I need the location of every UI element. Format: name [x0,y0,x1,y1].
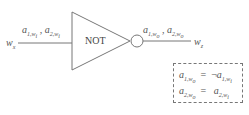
input-separator: , [40,24,43,35]
output-wire-sub: z [201,43,203,49]
equations-box: a1,wo = ¬a1,wi a2,wo = a2,wi [173,63,243,103]
input-signal-2-subsub: i [58,33,60,39]
eq1-rhs-subsub: i [230,78,232,84]
output-signal-2-sub: 2,w [172,31,181,37]
equation-2: a2,wo = a2,wi [179,85,229,100]
input-wire-name: w [6,37,13,48]
eq2-op: = [201,85,207,96]
eq1-lhs-sub: 1,w [184,76,193,82]
output-signals: a1,wo , a2,wo [143,24,184,39]
output-separator: , [162,24,165,35]
eq2-rhs-sub: 2,w [219,92,228,98]
eq2-lhs-subsub: o [193,94,196,100]
output-signal-1-sub: 1,w [148,31,157,37]
input-wire-sub: x [13,44,16,50]
input-signal-1-sub: 1,w [27,31,36,37]
output-wire-name: w [194,36,201,47]
eq1-lhs-subsub: o [193,78,196,84]
eq2-lhs-sub: 2,w [184,92,193,98]
input-signal-1-subsub: i [36,33,38,39]
input-signal-2-sub: 2,w [50,31,59,37]
output-signal-2-subsub: o [181,33,184,39]
inversion-bubble [131,35,143,47]
eq1-op: = [201,69,207,80]
input-signals: a1,wi , a2,wi [22,24,60,39]
gate-label: NOT [85,35,106,46]
eq2-rhs-subsub: i [227,94,229,100]
output-wire-label: wz [194,36,203,49]
output-signal-1-subsub: o [157,33,160,39]
equation-1: a1,wo = ¬a1,wi [179,69,232,84]
input-wire-label: wx [6,37,15,50]
